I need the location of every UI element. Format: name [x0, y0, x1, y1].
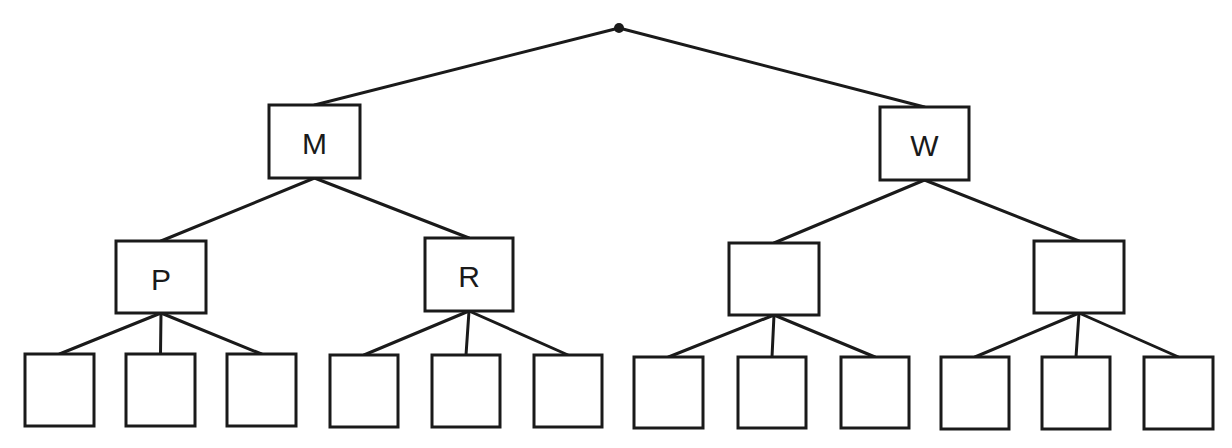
node-box	[432, 355, 500, 427]
nodes-layer: MWPR	[25, 105, 1213, 429]
node-box	[729, 243, 819, 315]
tree-node-a2	[738, 357, 806, 428]
edge-w2-b3	[1079, 313, 1179, 357]
edge-w-w2	[925, 180, 1080, 241]
tree-node-p1	[25, 354, 94, 426]
edge-w1-a1	[669, 315, 775, 357]
node-box	[738, 357, 806, 428]
tree-node-b3	[1144, 357, 1213, 429]
edge-w-w1	[774, 180, 925, 243]
edge-p-p2	[161, 313, 162, 354]
node-label: R	[458, 260, 480, 293]
edge-r-r2	[466, 311, 469, 355]
edge-p-p1	[60, 313, 162, 354]
edge-r-r3	[469, 311, 568, 355]
root-node-dot	[614, 23, 624, 33]
tree-node-p: P	[116, 241, 206, 313]
node-box	[534, 355, 602, 427]
node-label: P	[151, 263, 171, 296]
node-box	[841, 357, 909, 428]
node-label: M	[302, 127, 327, 160]
edge-w1-a3	[774, 315, 875, 357]
edge-root-w	[619, 28, 925, 107]
edge-r-r1	[364, 311, 469, 355]
tree-node-w: W	[880, 107, 969, 180]
node-box	[634, 357, 703, 428]
node-box	[1042, 357, 1110, 429]
edge-m-p	[161, 178, 315, 241]
edges-layer	[60, 28, 1179, 357]
node-box	[227, 354, 296, 426]
edge-w1-a2	[772, 315, 774, 357]
edge-p-p3	[161, 313, 262, 354]
tree-node-w1	[729, 243, 819, 315]
edge-w2-b1	[975, 313, 1079, 357]
tree-node-p2	[126, 354, 195, 426]
node-box	[25, 354, 94, 426]
tree-node-a1	[634, 357, 703, 428]
tree-node-r3	[534, 355, 602, 427]
node-box	[941, 357, 1009, 429]
tree-node-w2	[1034, 241, 1124, 313]
edge-m-r	[315, 178, 470, 238]
tree-node-p3	[227, 354, 296, 426]
node-box	[126, 354, 195, 426]
node-box	[1144, 357, 1213, 429]
tree-node-b2	[1042, 357, 1110, 429]
edge-w2-b2	[1076, 313, 1079, 357]
tree-node-r2	[432, 355, 500, 427]
tree-node-r1	[330, 355, 398, 427]
node-label: W	[910, 129, 939, 162]
tree-node-a3	[841, 357, 909, 428]
tree-node-m: M	[269, 105, 360, 178]
tree-node-b1	[941, 357, 1009, 429]
node-box	[330, 355, 398, 427]
node-box	[1034, 241, 1124, 313]
tree-diagram: MWPR	[0, 0, 1232, 448]
edge-root-m	[315, 28, 620, 105]
tree-node-r: R	[425, 238, 513, 311]
